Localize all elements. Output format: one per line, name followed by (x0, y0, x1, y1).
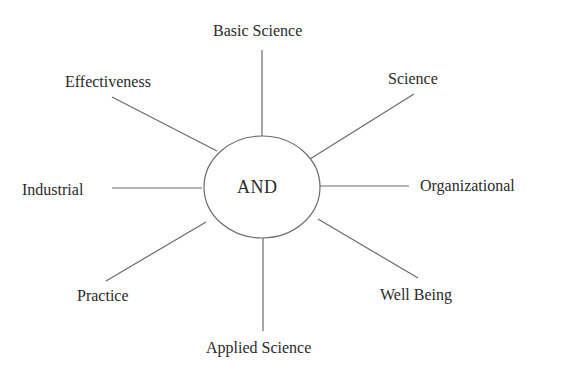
concept-diagram: AND Basic Science Science Organizational… (0, 0, 564, 382)
spoke-science (310, 94, 414, 159)
node-applied-science: Applied Science (206, 339, 311, 357)
node-well-being: Well Being (380, 286, 452, 304)
node-effectiveness: Effectiveness (65, 73, 151, 91)
spoke-effectiveness (112, 97, 217, 151)
spoke-practice (106, 222, 206, 281)
node-industrial: Industrial (22, 181, 83, 199)
node-practice: Practice (77, 287, 129, 305)
node-science: Science (388, 70, 438, 88)
node-organizational: Organizational (420, 177, 515, 195)
spoke-well-being (318, 219, 418, 278)
center-label: AND (237, 177, 278, 197)
node-basic-science: Basic Science (213, 22, 302, 40)
